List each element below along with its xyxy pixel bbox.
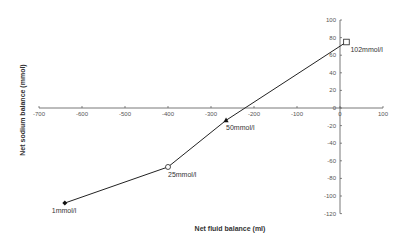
x-tick-label: -500	[119, 111, 132, 117]
data-point-label: 50mmol/l	[226, 124, 255, 131]
data-point-label: 1mmol/l	[52, 207, 77, 214]
y-tick-label: -100	[324, 193, 337, 199]
y-tick-label: -60	[327, 158, 336, 164]
y-tick-label: -40	[327, 140, 336, 146]
y-tick-label: 20	[329, 87, 336, 93]
y-axis-title: Net sodium balance (mmol)	[19, 64, 27, 155]
x-axis-title: Net fluid balance (ml)	[195, 225, 266, 233]
axes: -700-600-500-400-300-200-100010010080604…	[33, 17, 389, 217]
x-tick-label: -200	[248, 111, 261, 117]
y-tick-label: 100	[326, 17, 337, 23]
data-point-label: 102mmol/l	[350, 46, 383, 53]
y-tick-label: -20	[327, 123, 336, 129]
diamond-marker-icon	[62, 201, 67, 206]
chart: -700-600-500-400-300-200-100010010080604…	[0, 0, 407, 245]
x-tick-label: 100	[378, 111, 389, 117]
y-tick-label: -80	[327, 175, 336, 181]
y-tick-label: -120	[324, 211, 337, 217]
y-tick-label: 80	[329, 35, 336, 41]
x-tick-label: -700	[33, 111, 46, 117]
x-tick-label: -400	[162, 111, 175, 117]
y-tick-label: 60	[329, 52, 336, 58]
x-tick-label: -300	[205, 111, 218, 117]
series-line	[65, 42, 347, 203]
square-marker-icon	[344, 39, 350, 45]
circle-marker-icon	[166, 164, 171, 169]
y-tick-label: 40	[329, 70, 336, 76]
x-tick-label: -100	[291, 111, 304, 117]
x-tick-label: -600	[76, 111, 89, 117]
data-point-label: 25mmol/l	[168, 171, 197, 178]
triangle-marker-icon	[223, 118, 228, 123]
